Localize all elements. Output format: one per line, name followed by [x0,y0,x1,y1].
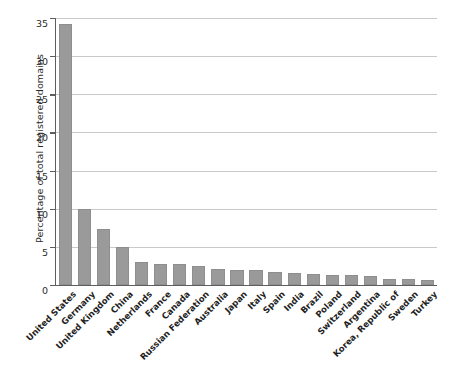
bar [326,275,339,285]
bar [116,247,129,285]
bar [211,269,224,285]
bar [59,24,72,285]
bar [421,280,434,285]
bar [345,275,358,285]
y-tick-mark [50,56,55,57]
y-tick-label: 10 [22,209,48,220]
y-tick-mark [50,171,55,172]
plot-area [56,18,437,285]
bar [173,264,186,285]
y-tick-label: 25 [22,94,48,105]
y-tick-label: 35 [22,18,48,29]
bar [135,262,148,285]
y-tick-label: 5 [22,247,48,258]
y-tick-label: 20 [22,132,48,143]
bar [402,279,415,285]
y-tick-mark [50,132,55,133]
bar [268,272,281,285]
bar [78,209,91,285]
bar-chart: Percentage of total registered domains 0… [0,0,460,372]
y-tick-mark [50,209,55,210]
y-tick-label: 15 [22,171,48,182]
y-tick-mark [50,94,55,95]
bar [230,270,243,285]
bar [383,279,396,285]
y-tick-mark [50,247,55,248]
bar [288,273,301,285]
bar [307,274,320,285]
bar [154,264,167,285]
bar [249,270,262,285]
y-tick-label: 30 [22,56,48,67]
bar [364,276,377,285]
y-tick-mark [50,18,55,19]
y-tick-label: 0 [22,285,48,296]
x-axis-line [55,285,437,286]
y-tick-mark [50,285,55,286]
bar [97,229,110,285]
bar [192,266,205,285]
